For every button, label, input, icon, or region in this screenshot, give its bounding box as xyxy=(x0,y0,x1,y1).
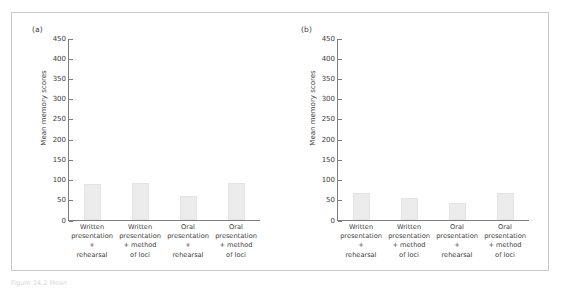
x-axis-label: Writtenpresentation+ methodof loci xyxy=(385,223,433,260)
bar xyxy=(180,196,197,220)
x-axis-labels-b: Writtenpresentation+rehearsalWrittenpres… xyxy=(337,223,529,260)
x-axis-label: Oralpresentation+ methodof loci xyxy=(481,223,529,260)
plot-area-a: 050100150200250300350400450 xyxy=(68,39,260,221)
bar-slot xyxy=(117,39,165,220)
bar-slot xyxy=(212,39,260,220)
bar xyxy=(84,184,101,220)
x-axis-label-line: of loci xyxy=(116,251,164,260)
y-tick-label: 50 xyxy=(326,197,338,204)
y-tick-label: 100 xyxy=(322,177,338,184)
chart-panel-b: (b) Mean memory scores 05010015020025030… xyxy=(280,12,549,271)
y-tick-label: 450 xyxy=(322,36,338,43)
x-axis-label-line: Oral xyxy=(481,223,529,232)
figure-root: (a) Mean memory scores 05010015020025030… xyxy=(0,0,564,293)
bar xyxy=(401,198,418,220)
x-axis-label-line: + method xyxy=(212,241,260,250)
y-tick-label: 150 xyxy=(322,157,338,164)
x-axis-label-line: presentation xyxy=(481,232,529,241)
x-axis-label-line: rehearsal xyxy=(337,251,385,260)
y-tick-label: 300 xyxy=(53,96,69,103)
x-axis-label: Oralpresentation+rehearsal xyxy=(433,223,481,260)
x-axis-label-line: Oral xyxy=(433,223,481,232)
y-tick-label: 150 xyxy=(53,157,69,164)
bar-slot xyxy=(434,39,482,220)
x-axis-label-line: presentation xyxy=(164,232,212,241)
y-tick-label: 250 xyxy=(322,116,338,123)
x-axis-label-line: + xyxy=(164,241,212,250)
x-axis-label-line: Written xyxy=(337,223,385,232)
bar-group-b xyxy=(338,39,529,220)
y-tick-mark xyxy=(69,221,73,222)
x-axis-label-line: presentation xyxy=(116,232,164,241)
panel-container: (a) Mean memory scores 05010015020025030… xyxy=(11,12,549,271)
x-axis-label-line: rehearsal xyxy=(164,251,212,260)
bar-slot xyxy=(69,39,117,220)
x-axis-label-line: + method xyxy=(385,241,433,250)
x-axis-label-line: Written xyxy=(116,223,164,232)
y-tick-label: 400 xyxy=(322,56,338,63)
x-axis-label: Writtenpresentation+rehearsal xyxy=(337,223,385,260)
figure-caption: Figure 14.2 Mean xyxy=(11,279,67,288)
bar xyxy=(132,183,149,220)
x-axis-label-line: presentation xyxy=(433,232,481,241)
y-tick-label: 350 xyxy=(53,76,69,83)
y-tick-label: 200 xyxy=(53,137,69,144)
y-tick-label: 50 xyxy=(57,197,69,204)
x-axis-label-line: presentation xyxy=(337,232,385,241)
panel-label-a: (a) xyxy=(32,25,43,34)
y-tick-label: 350 xyxy=(322,76,338,83)
x-axis-label-line: + method xyxy=(481,241,529,250)
x-axis-label-line: + xyxy=(433,241,481,250)
y-tick-label: 100 xyxy=(53,177,69,184)
x-axis-label-line: rehearsal xyxy=(433,251,481,260)
bar-slot xyxy=(386,39,434,220)
y-tick-label: 200 xyxy=(322,137,338,144)
x-axis-label-line: + method xyxy=(116,241,164,250)
y-tick-label: 300 xyxy=(322,96,338,103)
bar-slot xyxy=(165,39,213,220)
y-axis-title-b: Mean memory scores xyxy=(309,53,317,163)
x-axis-label: Writtenpresentation+rehearsal xyxy=(68,223,116,260)
y-tick-mark xyxy=(338,221,342,222)
x-axis-label: Oralpresentation+rehearsal xyxy=(164,223,212,260)
y-tick-label: 400 xyxy=(53,56,69,63)
bar-slot xyxy=(338,39,386,220)
x-axis-label-line: presentation xyxy=(68,232,116,241)
x-axis-label-line: rehearsal xyxy=(68,251,116,260)
y-tick-label: 250 xyxy=(53,116,69,123)
bar xyxy=(497,193,514,220)
x-axis-label-line: of loci xyxy=(385,251,433,260)
x-axis-label-line: + xyxy=(337,241,385,250)
x-axis-labels-a: Writtenpresentation+rehearsalWrittenpres… xyxy=(68,223,260,260)
bar xyxy=(353,193,370,220)
plot-area-b: 050100150200250300350400450 xyxy=(337,39,529,221)
panel-label-b: (b) xyxy=(301,25,312,34)
bar-group-a xyxy=(69,39,260,220)
x-axis-label: Oralpresentation+ methodof loci xyxy=(212,223,260,260)
x-axis-label-line: Written xyxy=(68,223,116,232)
chart-panel-a: (a) Mean memory scores 05010015020025030… xyxy=(11,12,280,271)
x-axis-label: Writtenpresentation+ methodof loci xyxy=(116,223,164,260)
x-axis-label-line: Oral xyxy=(164,223,212,232)
bar xyxy=(449,203,466,220)
x-axis-label-line: presentation xyxy=(385,232,433,241)
y-axis-title-a: Mean memory scores xyxy=(40,53,48,163)
x-axis-label-line: presentation xyxy=(212,232,260,241)
x-axis-label-line: of loci xyxy=(212,251,260,260)
x-axis-label-line: Oral xyxy=(212,223,260,232)
bar-slot xyxy=(481,39,529,220)
x-axis-label-line: Written xyxy=(385,223,433,232)
bar xyxy=(228,183,245,220)
x-axis-label-line: + xyxy=(68,241,116,250)
y-tick-label: 450 xyxy=(53,36,69,43)
x-axis-label-line: of loci xyxy=(481,251,529,260)
